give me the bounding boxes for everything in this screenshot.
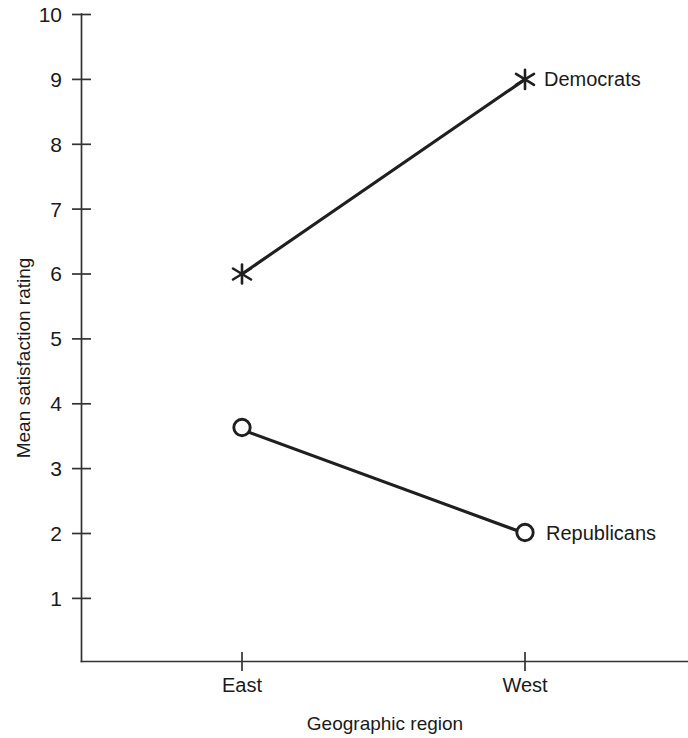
y-tick-label-2: 2 (50, 522, 62, 545)
x-tick-label-east: East (222, 674, 262, 696)
republicans-marker-east (234, 419, 250, 435)
axis-spines (82, 14, 688, 662)
y-tick-label-8: 8 (50, 133, 62, 156)
y-tick-label-1: 1 (50, 587, 62, 610)
republicans-marker-west (517, 524, 533, 540)
chart-canvas: 10 9 8 7 6 5 4 3 2 1 East West Geographi… (0, 0, 688, 738)
series-democrats: Democrats (233, 68, 641, 284)
interaction-plot-figure: 10 9 8 7 6 5 4 3 2 1 East West Geographi… (0, 0, 688, 738)
y-axis-title: Mean satisfaction rating (13, 258, 34, 459)
y-tick-label-5: 5 (50, 327, 62, 350)
y-axis-tick-labels: 10 9 8 7 6 5 4 3 2 1 (39, 3, 63, 610)
x-axis-title: Geographic region (307, 713, 463, 734)
x-tick-label-west: West (502, 674, 548, 696)
democrats-line-segment (242, 79, 525, 274)
y-tick-label-6: 6 (50, 262, 62, 285)
democrats-marker-west (516, 70, 534, 89)
republicans-line-segment (242, 430, 525, 534)
democrats-marker-east (233, 265, 251, 284)
republicans-series-label: Republicans (546, 522, 656, 544)
series-republicans: Republicans (234, 419, 656, 544)
y-tick-label-4: 4 (50, 392, 62, 415)
y-tick-label-3: 3 (50, 457, 62, 480)
x-axis-tick-labels: East West (222, 674, 548, 696)
y-tick-label-10: 10 (39, 3, 62, 26)
y-tick-label-9: 9 (50, 68, 62, 91)
democrats-series-label: Democrats (544, 68, 641, 90)
y-tick-label-7: 7 (50, 198, 62, 221)
